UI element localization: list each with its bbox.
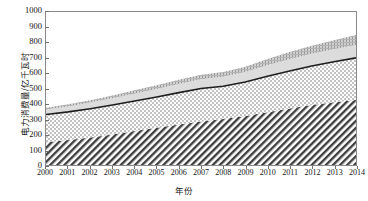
y-tick-mark <box>45 120 49 121</box>
x-tick-mark <box>290 166 291 169</box>
y-tick-label: 400 <box>12 99 42 108</box>
y-tick-mark <box>45 166 49 167</box>
y-tick-mark <box>45 27 49 28</box>
x-tick-mark <box>201 166 202 169</box>
y-tick-label: 800 <box>12 37 42 46</box>
y-tick-mark <box>45 151 49 152</box>
y-tick-mark <box>45 104 49 105</box>
x-tick-mark <box>357 166 358 169</box>
y-tick-label: 900 <box>12 22 42 31</box>
y-tick-label: 300 <box>12 115 42 124</box>
y-tick-mark <box>45 11 49 12</box>
x-tick-mark <box>223 166 224 169</box>
y-tick-mark <box>45 89 49 90</box>
y-tick-label: 600 <box>12 68 42 77</box>
x-tick-label: 2014 <box>337 169 368 177</box>
y-tick-mark <box>45 135 49 136</box>
x-tick-mark <box>268 166 269 169</box>
x-tick-mark <box>156 166 157 169</box>
x-tick-mark <box>134 166 135 169</box>
y-tick-mark <box>45 42 49 43</box>
y-tick-label: 700 <box>12 53 42 62</box>
y-tick-label: 1000 <box>12 6 42 15</box>
y-tick-mark <box>45 58 49 59</box>
y-tick-label: 200 <box>12 130 42 139</box>
x-tick-mark <box>335 166 336 169</box>
x-tick-mark <box>179 166 180 169</box>
y-tick-mark <box>45 73 49 74</box>
plot-area <box>45 11 357 166</box>
y-tick-label: 100 <box>12 146 42 155</box>
x-tick-mark <box>312 166 313 169</box>
stacked-area-svg <box>46 12 356 165</box>
x-axis-label: 年份 <box>0 184 368 196</box>
x-tick-mark <box>112 166 113 169</box>
chart-figure: 电力消费量/亿千瓦时 01002003004005006007008009001… <box>0 0 368 201</box>
x-tick-mark <box>67 166 68 169</box>
y-tick-label: 500 <box>12 84 42 93</box>
x-tick-mark <box>246 166 247 169</box>
x-tick-mark <box>90 166 91 169</box>
